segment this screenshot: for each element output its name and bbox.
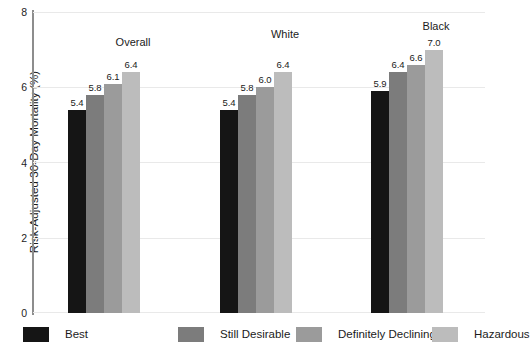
bar-overall-still-desirable: [86, 95, 104, 313]
legend-swatch-icon: [23, 327, 49, 342]
legend-item-best[interactable]: Best: [23, 322, 88, 346]
bar-group-overall: Overall 5.45.86.16.4: [68, 12, 198, 313]
bar-group-title-black: Black: [371, 20, 501, 32]
legend-swatch-icon: [178, 327, 204, 342]
chart-legend: BestStill DesirableDefinitely DecliningH…: [0, 322, 488, 350]
legend-item-definitely-declining[interactable]: Definitely Declining: [296, 322, 436, 346]
bar-value-overall-hazardous: 6.4: [117, 59, 145, 70]
legend-swatch-icon: [296, 327, 322, 342]
legend-swatch-icon: [432, 327, 458, 342]
bar-overall-definitely-declining: [104, 84, 122, 314]
y-tick-label-8: 8: [5, 6, 27, 18]
bar-group-black: Black 5.96.46.67.0: [371, 12, 501, 313]
bar-overall-best: [68, 110, 86, 313]
legend-label: Definitely Declining: [338, 328, 436, 340]
bar-white-definitely-declining: [256, 87, 274, 313]
bar-value-white-hazardous: 6.4: [269, 59, 297, 70]
bar-group-title-white: White: [220, 28, 350, 40]
legend-label: Best: [65, 328, 88, 340]
bar-group-white: White 5.45.86.06.4: [220, 12, 350, 313]
bar-black-still-desirable: [389, 72, 407, 313]
bar-white-best: [220, 110, 238, 313]
legend-item-hazardous[interactable]: Hazardous: [432, 322, 530, 346]
bar-group-title-overall: Overall: [68, 36, 198, 48]
legend-label: Still Desirable: [220, 328, 290, 340]
bar-overall-hazardous: [122, 72, 140, 313]
plot-area: Overall 5.45.86.16.4 White 5.45.86.06.4 …: [33, 12, 485, 313]
y-tick-label-0: 0: [5, 307, 27, 319]
bar-black-definitely-declining: [407, 65, 425, 313]
bar-value-black-hazardous: 7.0: [420, 37, 448, 48]
y-tick-label-6: 6: [5, 81, 27, 93]
bar-black-best: [371, 91, 389, 313]
y-tick-label-2: 2: [5, 232, 27, 244]
legend-item-still-desirable[interactable]: Still Desirable: [178, 322, 290, 346]
legend-label: Hazardous: [474, 328, 530, 340]
bar-white-still-desirable: [238, 95, 256, 313]
bar-white-hazardous: [274, 72, 292, 313]
bar-black-hazardous: [425, 50, 443, 313]
y-tick-label-4: 4: [5, 157, 27, 169]
